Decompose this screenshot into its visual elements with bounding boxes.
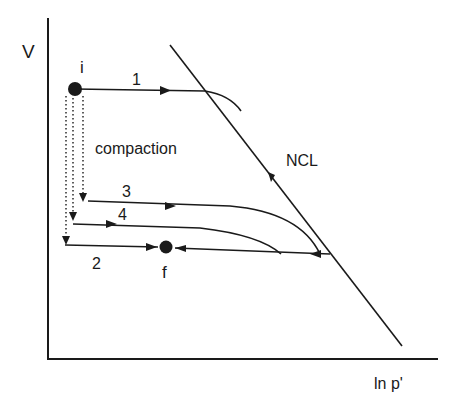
y-axis-label: V xyxy=(22,41,35,62)
unload-arrow-near-f-icon xyxy=(175,245,186,252)
path-4 xyxy=(73,224,281,254)
initial-point-label: i xyxy=(80,58,84,77)
path-1 xyxy=(75,89,241,111)
initial-point xyxy=(68,82,82,96)
path-3-label: 3 xyxy=(122,183,131,200)
path-2-label: 2 xyxy=(92,255,101,272)
unload-arrow-near-ncl-icon xyxy=(310,250,321,258)
x-axis-label: ln p' xyxy=(374,375,403,392)
path-1-label: 1 xyxy=(132,71,141,88)
path-2 xyxy=(65,245,158,247)
arrowhead-down-2-icon xyxy=(62,236,70,245)
ncl-line xyxy=(170,45,402,346)
ncl-label: NCL xyxy=(286,152,318,169)
path-1-arrow-icon xyxy=(160,86,171,95)
path-4-arrow-icon xyxy=(106,220,117,228)
compaction-label: compaction xyxy=(95,140,177,157)
compaction-diagram: V ln p' i f NCL compaction 1 3 4 2 xyxy=(0,0,466,410)
path-4-label: 4 xyxy=(118,206,127,223)
arrowhead-down-3-icon xyxy=(79,193,87,202)
path-2-arrow-icon xyxy=(146,243,157,251)
final-point xyxy=(160,241,173,254)
arrowhead-down-4-icon xyxy=(69,212,77,221)
unload-line xyxy=(175,248,330,254)
final-point-label: f xyxy=(162,263,167,282)
